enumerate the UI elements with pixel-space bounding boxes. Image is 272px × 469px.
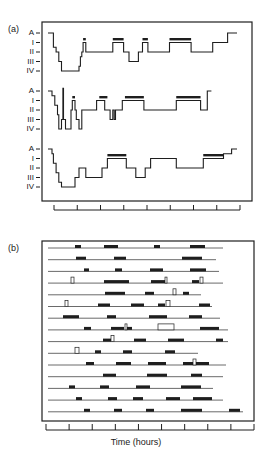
rem-bar [113, 38, 124, 40]
rem-episode-bar [100, 385, 109, 388]
rem-episode-bar [114, 257, 126, 260]
panel-a-hypnograms [36, 22, 252, 210]
rem-episode-bar [136, 385, 150, 388]
rem-episode-bar [76, 397, 82, 400]
awakening-box [75, 347, 79, 353]
rem-episode-bar [145, 292, 154, 295]
awakening-box [200, 277, 203, 283]
rem-episode-bar [86, 362, 94, 365]
rem-episode-bar [150, 268, 163, 271]
rem-bar [125, 96, 144, 98]
rem-episode-bar [103, 374, 116, 377]
rem-episode-bar [114, 409, 122, 412]
rem-episode-bar [115, 268, 122, 271]
rem-episode-bar [133, 397, 143, 400]
rem-episode-bar [166, 397, 180, 400]
rem-episode-bar [108, 397, 117, 400]
rem-bar [107, 154, 126, 156]
rem-episode-bar [63, 315, 79, 318]
rem-episode-bar [183, 362, 193, 365]
rem-episode-bar [190, 245, 205, 248]
awakening-box [71, 277, 74, 283]
rem-episode-bar [165, 350, 175, 353]
panel-a-frame [42, 22, 252, 201]
rem-episode-bar [189, 315, 202, 318]
figure-canvas [0, 0, 272, 469]
rem-episode-bar [75, 245, 81, 248]
rem-episode-bar [98, 304, 110, 307]
rem-bar [176, 96, 200, 98]
awakening-box [111, 336, 114, 342]
rem-episode-bar [84, 327, 91, 330]
awakening-box [165, 277, 167, 283]
rem-episode-bar [105, 292, 125, 295]
rem-episode-bar [154, 245, 160, 248]
rem-bar [143, 38, 148, 40]
rem-episode-bar [123, 350, 132, 353]
rem-episode-bar [95, 350, 101, 353]
rem-episode-bar [229, 409, 240, 412]
rem-episode-bar [200, 327, 219, 330]
awakening-box [158, 324, 174, 330]
rem-episode-bar [181, 409, 202, 412]
rem-episode-bar [116, 362, 131, 365]
rem-episode-bar [199, 304, 210, 307]
rem-episode-bar [168, 339, 184, 342]
awakening-box [65, 301, 68, 307]
rem-episode-bar [84, 268, 89, 271]
rem-episode-bar [69, 385, 75, 388]
rem-episode-bar [193, 397, 212, 400]
rem-episode-bar [190, 268, 206, 271]
rem-episode-bar [192, 280, 199, 283]
rem-episode-bar [111, 327, 124, 330]
rem-episode-bar [181, 385, 201, 388]
rem-episode-bar [104, 280, 129, 283]
awakening-box [193, 359, 196, 365]
rem-episode-bar [182, 257, 202, 260]
rem-episode-bar [151, 280, 165, 283]
rem-episode-bar [104, 245, 118, 248]
rem-episode-bar [103, 339, 111, 342]
rem-episode-bar [146, 409, 154, 412]
rem-episode-bar [196, 362, 209, 365]
rem-bar [203, 154, 223, 156]
panel-b-frame [42, 241, 254, 421]
rem-episode-bar [216, 339, 223, 342]
rem-bar [83, 38, 86, 40]
rem-episode-bar [76, 257, 86, 260]
rem-bar [99, 96, 107, 98]
panel-b-rem-raster [42, 241, 254, 430]
rem-episode-bar [131, 304, 144, 307]
rem-episode-bar [134, 339, 146, 342]
rem-episode-bar [107, 315, 116, 318]
hypnogram-trace [48, 88, 211, 129]
rem-bar [72, 96, 75, 98]
rem-episode-bar [191, 374, 202, 377]
rem-bar [170, 38, 192, 40]
awakening-box [125, 324, 127, 330]
rem-episode-bar [183, 292, 189, 295]
rem-episode-bar [84, 409, 90, 412]
awakening-box [173, 289, 176, 295]
awakening-box [166, 301, 170, 307]
rem-episode-bar [147, 374, 167, 377]
rem-episode-bar [158, 304, 165, 307]
rem-episode-bar [148, 362, 166, 365]
rem-episode-bar [149, 315, 167, 318]
